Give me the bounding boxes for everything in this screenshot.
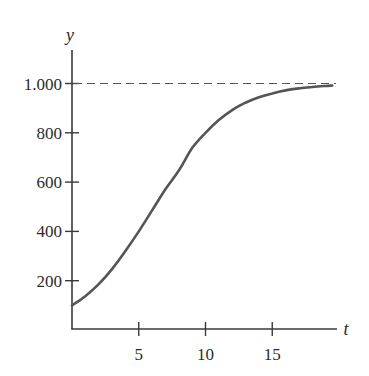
x-tick-label: 10 (197, 345, 214, 364)
data-curve (72, 86, 332, 306)
y-axis-label: y (64, 25, 74, 45)
y-tick-label: 600 (37, 173, 63, 192)
x-tick-label: 15 (264, 345, 281, 364)
ticks: 2004006008001.00051015 (24, 75, 281, 365)
y-tick-label: 200 (37, 272, 63, 291)
y-tick-label: 800 (37, 124, 63, 143)
x-axis-label: t (343, 319, 349, 339)
y-tick-label: 400 (37, 222, 63, 241)
axes (71, 50, 337, 329)
logistic-chart: 2004006008001.00051015 y t (0, 0, 369, 376)
x-tick-label: 5 (135, 345, 144, 364)
y-tick-label: 1.000 (24, 75, 62, 94)
